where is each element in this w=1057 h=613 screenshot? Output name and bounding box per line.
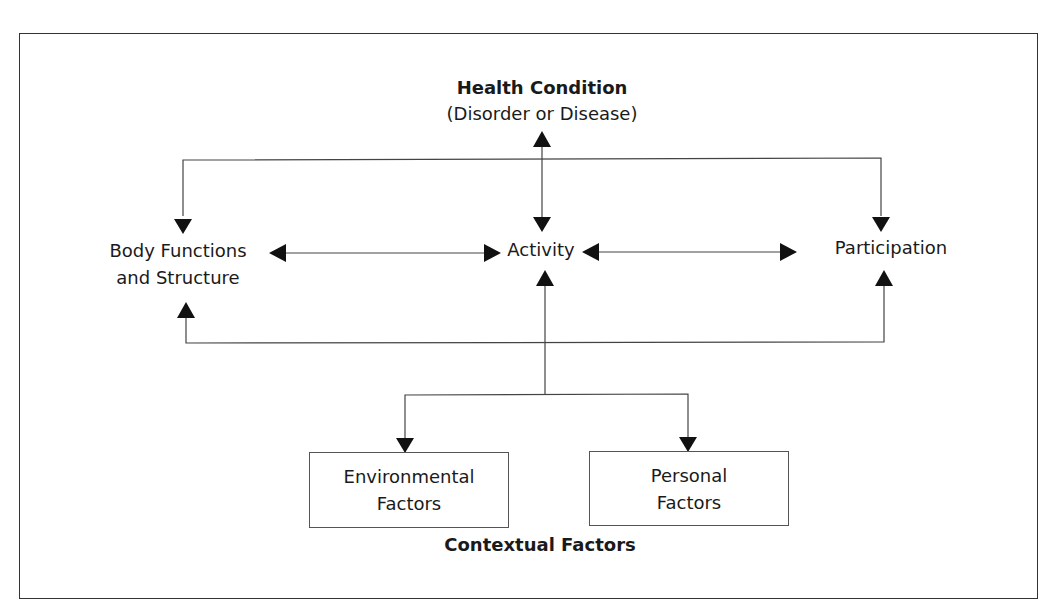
bottom-bracket-line [186, 286, 884, 343]
icf-diagram: Health Condition (Disorder or Disease) B… [0, 0, 1057, 613]
body-functions-line2: and Structure [92, 265, 264, 291]
contextual-factors-label: Contextual Factors [420, 532, 660, 558]
arrow-up-health [533, 131, 551, 147]
health-condition-title: Health Condition [442, 75, 642, 101]
top-bracket-line [183, 158, 881, 216]
environmental-factors-line1: Environmental [344, 463, 475, 490]
health-condition-subtitle: (Disorder or Disease) [422, 101, 662, 127]
context-branch-line [405, 394, 688, 440]
activity-label: Activity [500, 237, 582, 263]
arrow-down-participation [872, 217, 890, 232]
arrow-down-body [174, 219, 192, 234]
arrow-down-environmental [396, 438, 414, 453]
arrow-left-body [269, 244, 286, 262]
arrow-left-activity [582, 243, 599, 261]
personal-factors-line2: Factors [657, 489, 721, 516]
arrow-up-body [177, 302, 195, 318]
arrow-up-activity [536, 270, 554, 286]
arrow-right-participation [780, 243, 797, 261]
environmental-factors-box: Environmental Factors [309, 452, 509, 528]
arrow-right-activity [484, 244, 501, 262]
personal-factors-box: Personal Factors [589, 451, 789, 526]
personal-factors-line1: Personal [651, 462, 728, 489]
environmental-factors-line2: Factors [377, 490, 441, 517]
participation-label: Participation [818, 235, 964, 261]
arrow-down-personal [679, 437, 697, 452]
arrow-up-participation [875, 270, 893, 286]
arrow-down-activity [533, 217, 551, 232]
body-functions-line1: Body Functions [92, 238, 264, 264]
